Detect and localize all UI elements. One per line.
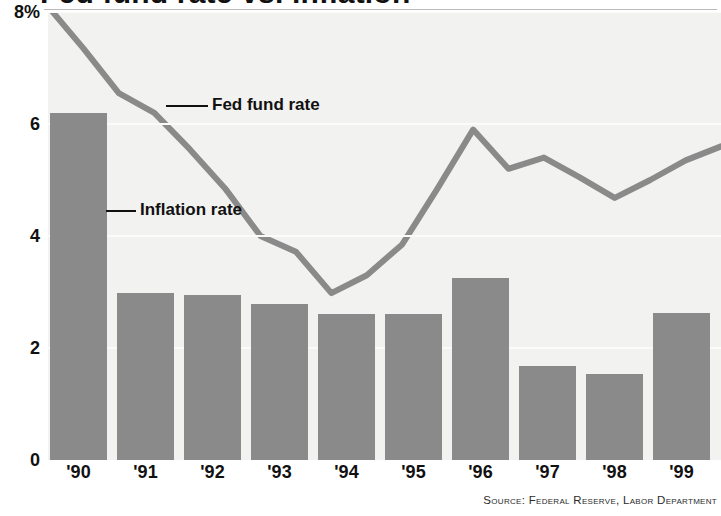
x-axis-tick-label: '98: [602, 462, 626, 483]
x-axis-tick-label: '96: [468, 462, 492, 483]
inflation-bar: [251, 304, 308, 460]
inflation-rate-label: Inflation rate: [140, 200, 242, 220]
line-label-leader: [166, 105, 208, 107]
x-axis-tick-label: '91: [133, 462, 157, 483]
y-axis-tick-label: 6: [30, 114, 40, 135]
source-note: Source: Federal Reserve, Labor Departmen…: [483, 494, 717, 506]
inflation-bar: [586, 374, 643, 460]
plot-area: [48, 12, 721, 460]
inflation-bar: [385, 314, 442, 460]
inflation-bar: [452, 278, 509, 460]
inflation-bar: [50, 113, 107, 460]
inflation-bar: [653, 313, 710, 460]
gridline: [48, 235, 721, 237]
bar-label-leader: [106, 210, 136, 212]
x-axis-tick-label: '92: [200, 462, 224, 483]
x-axis-tick-label: '93: [267, 462, 291, 483]
inflation-bar: [519, 366, 576, 460]
x-axis: '90'91'92'93'94'95'96'97'98'99: [48, 462, 721, 492]
x-axis-tick-label: '94: [334, 462, 358, 483]
inflation-bar: [184, 295, 241, 460]
inflation-bar: [318, 314, 375, 460]
x-axis-tick-label: '97: [535, 462, 559, 483]
title-divider: [44, 9, 717, 10]
y-axis: 02468%: [0, 0, 48, 472]
y-axis-tick-label: 4: [30, 226, 40, 247]
y-axis-tick-label: 2: [30, 338, 40, 359]
fed-fund-rate-label: Fed fund rate: [212, 95, 320, 115]
gridline: [48, 12, 721, 13]
y-axis-tick-label: 8%: [14, 2, 40, 23]
x-axis-tick-label: '90: [66, 462, 90, 483]
x-axis-tick-label: '95: [401, 462, 425, 483]
x-axis-tick-label: '99: [669, 462, 693, 483]
gridline: [48, 123, 721, 125]
inflation-bar: [117, 293, 174, 460]
chart-figure: Fed fund rate vs. inflation 02468% '90'9…: [0, 0, 721, 516]
y-axis-tick-label: 0: [30, 450, 40, 471]
